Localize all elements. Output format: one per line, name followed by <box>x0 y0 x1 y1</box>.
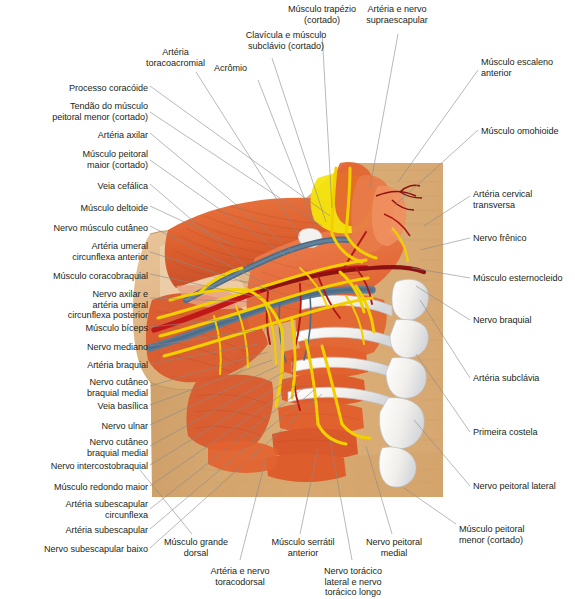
label-musculo-grande-dorsal: Músculo grande dorsal <box>148 537 244 558</box>
label-nervo-toracico-lateral-longo: Nervo torácico lateral e nervo torácico … <box>310 566 396 598</box>
label-veia-basilica: Veia basílica <box>98 401 148 412</box>
label-arteria-nervo-toracodorsal: Artéria e nervo toracodorsal <box>192 566 288 587</box>
diagram-canvas: Processo coracóide Tendão do músculo pei… <box>0 0 575 599</box>
label-musculo-peitoral-maior: Músculo peitoral maior (cortado) <box>83 149 148 170</box>
label-nervo-peitoral-medial: Nervo peitoral medial <box>355 537 433 558</box>
label-musculo-redondo-maior: Músculo redondo maior <box>54 482 148 493</box>
label-primeira-costela: Primeira costela <box>473 427 537 438</box>
label-nervo-cutaneo-braquial-medial-superior: Nervo cutâneo braquial medial <box>87 377 148 398</box>
label-arteria-axilar: Artéria axilar <box>98 130 148 141</box>
label-nervo-intercostobraquial: Nervo intercostobraquial <box>51 461 148 472</box>
label-arteria-braquial: Artéria braquial <box>87 360 148 371</box>
label-musculo-serratil-anterior: Músculo serrátil anterior <box>256 537 350 558</box>
label-nervo-braquial: Nervo braquial <box>473 315 531 326</box>
label-clavicula-musculo-subclavio: Clavícula e músculo subclávio (cortado) <box>227 30 345 51</box>
label-nervo-musculo-cutaneo: Nervo músculo cutâneo <box>54 223 148 234</box>
label-arteria-umeral-circunflexa-anterior: Artéria umeral circunflexa anterior <box>72 241 148 262</box>
label-tendao-peitoral-menor: Tendão do músculo peitoral menor (cortad… <box>52 101 148 122</box>
label-nervo-peitoral-lateral: Nervo peitoral lateral <box>473 481 556 492</box>
label-arteria-subclavia: Artéria subclávia <box>473 373 539 384</box>
label-nervo-frenico: Nervo frênico <box>473 233 526 244</box>
label-arteria-cervical-transversa: Artéria cervical transversa <box>473 189 532 210</box>
label-acromio: Acrômio <box>214 63 247 74</box>
label-nervo-subescapular-baixo: Nervo subescapular baixo <box>44 544 148 555</box>
label-musculo-omohioide: Músculo omohioide <box>481 126 559 137</box>
label-nervo-ulnar: Nervo ulnar <box>102 421 148 432</box>
label-processo-coracoide: Processo coracóide <box>69 83 148 94</box>
label-musculo-deltoide: Músculo deltoide <box>81 203 148 214</box>
label-musculo-escaleno-anterior: Músculo escaleno anterior <box>481 57 553 78</box>
label-musculo-peitoral-menor: Músculo peitoral menor (cortado) <box>459 524 524 545</box>
label-veia-cefalica: Veia cefálica <box>98 181 148 192</box>
label-musculo-biceps: Músculo bíceps <box>86 323 148 334</box>
label-nervo-mediano: Nervo mediano <box>87 342 148 353</box>
label-nervo-cutaneo-braquial-medial-inferior: Nervo cutâneo braquial medial <box>87 437 148 458</box>
label-musculo-coracobraquial: Músculo coracobraquial <box>53 271 148 282</box>
label-arteria-nervo-supraescapular: Artéria e nervo supraescapular <box>347 4 447 25</box>
label-arteria-subescapular-circunflexa: Artéria subescapular circunflexa <box>66 499 148 520</box>
label-nervo-axilar-arteria-umeral: Nervo axilar e artéria umeral circunflex… <box>68 289 148 321</box>
label-musculo-esternocleido: Músculo esternocleido <box>473 273 562 284</box>
label-arteria-subescapular: Artéria subescapular <box>66 525 148 536</box>
